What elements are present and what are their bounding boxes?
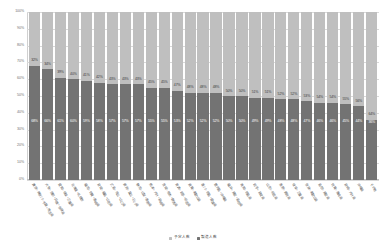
- bar-column[interactable]: 48%52%: [197, 12, 208, 180]
- legend-item[interactable]: 製造人数: [197, 236, 217, 240]
- bar-column[interactable]: 54%46%: [327, 12, 338, 180]
- bar-segment-manufactured[interactable]: 48%: [275, 99, 286, 180]
- bar-column[interactable]: 55%45%: [340, 12, 351, 180]
- bar-segment-planned[interactable]: 48%: [210, 12, 221, 93]
- bar-column[interactable]: 43%57%: [133, 12, 144, 180]
- bar-column[interactable]: 34%66%: [42, 12, 53, 180]
- bar-segment-manufactured[interactable]: 50%: [223, 96, 234, 180]
- bar-segment-planned[interactable]: 64%: [366, 12, 377, 120]
- bar-segment-planned[interactable]: 50%: [236, 12, 247, 96]
- bar-column[interactable]: 43%57%: [107, 12, 118, 180]
- bar-column[interactable]: 53%47%: [301, 12, 312, 180]
- bar-segment-label: 49%: [252, 120, 259, 124]
- x-axis-label-slot: 岩手・宮城県: [249, 182, 260, 230]
- bar-segment-planned[interactable]: 54%: [327, 12, 338, 103]
- y-axis-tick-label: 10%: [0, 161, 24, 165]
- bar-segment-planned[interactable]: 39%: [55, 12, 66, 78]
- x-axis-label-slot: 広島・岡山・山口県: [107, 182, 118, 230]
- bar-segment-manufactured[interactable]: 53%: [172, 91, 183, 180]
- bar-column[interactable]: 47%53%: [172, 12, 183, 180]
- bar-column[interactable]: 48%52%: [210, 12, 221, 180]
- bar-segment-manufactured[interactable]: 55%: [159, 88, 170, 180]
- bar-segment-planned[interactable]: 32%: [29, 12, 40, 66]
- bar-segment-label: 68%: [31, 120, 38, 124]
- bar-segment-manufactured[interactable]: 52%: [210, 93, 221, 180]
- bar-column[interactable]: 56%44%: [353, 12, 364, 180]
- bar-segment-manufactured[interactable]: 48%: [288, 99, 299, 180]
- bar-segment-planned[interactable]: 52%: [288, 12, 299, 99]
- bar-segment-planned[interactable]: 45%: [159, 12, 170, 88]
- bar-segment-planned[interactable]: 50%: [223, 12, 234, 96]
- bar-column[interactable]: 45%55%: [159, 12, 170, 180]
- bar-segment-manufactured[interactable]: 49%: [249, 98, 260, 180]
- bar-segment-planned[interactable]: 34%: [42, 12, 53, 69]
- bar-segment-manufactured[interactable]: 59%: [81, 81, 92, 180]
- bar-segment-planned[interactable]: 48%: [197, 12, 208, 93]
- bar-segment-manufactured[interactable]: 58%: [94, 83, 105, 180]
- bar-column[interactable]: 32%68%: [29, 12, 40, 180]
- bar-segment-planned[interactable]: 55%: [340, 12, 351, 104]
- bar-segment-planned[interactable]: 56%: [353, 12, 364, 106]
- bar-segment-label: 45%: [342, 120, 349, 124]
- bar-segment-label: 39%: [57, 71, 64, 75]
- bar-segment-planned[interactable]: 53%: [301, 12, 312, 101]
- bar-segment-planned[interactable]: 41%: [81, 12, 92, 81]
- bar-column[interactable]: 52%48%: [275, 12, 286, 180]
- bar-column[interactable]: 50%50%: [223, 12, 234, 180]
- bar-segment-manufactured[interactable]: 60%: [68, 79, 79, 180]
- bar-segment-label: 59%: [83, 120, 90, 124]
- legend-item[interactable]: 予定人数: [169, 236, 189, 240]
- bar-segment-manufactured[interactable]: 46%: [327, 103, 338, 180]
- bar-column[interactable]: 42%58%: [94, 12, 105, 180]
- bar-segment-planned[interactable]: 51%: [249, 12, 260, 98]
- bar-segment-planned[interactable]: 43%: [120, 12, 131, 84]
- bar-segment-manufactured[interactable]: 61%: [55, 78, 66, 180]
- bar-segment-label: 48%: [187, 86, 194, 90]
- bar-column[interactable]: 40%60%: [68, 12, 79, 180]
- bar-column[interactable]: 51%49%: [262, 12, 273, 180]
- bar-column[interactable]: 54%46%: [314, 12, 325, 180]
- bar-segment-planned[interactable]: 54%: [314, 12, 325, 103]
- bar-segment-planned[interactable]: 47%: [172, 12, 183, 91]
- bar-segment-planned[interactable]: 43%: [107, 12, 118, 84]
- bar-segment-manufactured[interactable]: 66%: [42, 69, 53, 180]
- bar-column[interactable]: 45%55%: [146, 12, 157, 180]
- bar-segment-manufactured[interactable]: 57%: [107, 84, 118, 180]
- bar-column[interactable]: 52%48%: [288, 12, 299, 180]
- bar-segment-label: 49%: [265, 120, 272, 124]
- bar-segment-manufactured[interactable]: 57%: [120, 84, 131, 180]
- bar-column[interactable]: 43%57%: [120, 12, 131, 180]
- x-axis-label-slot: 静岡・山梨・長野県: [133, 182, 144, 230]
- bar-segment-manufactured[interactable]: 50%: [236, 96, 247, 180]
- bar-segment-label: 66%: [44, 120, 51, 124]
- bar-segment-planned[interactable]: 45%: [146, 12, 157, 88]
- bar-segment-planned[interactable]: 51%: [262, 12, 273, 98]
- bar-segment-manufactured[interactable]: 49%: [262, 98, 273, 180]
- x-axis-labels: 東京・神奈川・千葉・埼玉県大阪・京都・兵庫・奈良県愛知・岐阜・三重県北海道・札幌…: [27, 182, 379, 230]
- bar-segment-manufactured[interactable]: 47%: [301, 101, 312, 180]
- bar-column[interactable]: 41%59%: [81, 12, 92, 180]
- bar-segment-manufactured[interactable]: 57%: [133, 84, 144, 180]
- bar-segment-manufactured[interactable]: 55%: [146, 88, 157, 180]
- bar-segment-planned[interactable]: 52%: [275, 12, 286, 99]
- bar-segment-label: 48%: [213, 86, 220, 90]
- bar-segment-manufactured[interactable]: 44%: [353, 106, 364, 180]
- bar-segment-planned[interactable]: 43%: [133, 12, 144, 84]
- bar-column[interactable]: 39%61%: [55, 12, 66, 180]
- y-axis-tick-label: 70%: [0, 60, 24, 64]
- bar-segment-manufactured[interactable]: 46%: [314, 103, 325, 180]
- bar-segment-planned[interactable]: 40%: [68, 12, 79, 79]
- bar-segment-manufactured[interactable]: 68%: [29, 66, 40, 180]
- bar-column[interactable]: 51%49%: [249, 12, 260, 180]
- bar-column[interactable]: 48%52%: [185, 12, 196, 180]
- bar-segment-manufactured[interactable]: 52%: [185, 93, 196, 180]
- y-axis-tick-label: 0%: [0, 178, 24, 182]
- bar-segment-manufactured[interactable]: 36%: [366, 120, 377, 180]
- bar-segment-manufactured[interactable]: 52%: [197, 93, 208, 180]
- bar-column[interactable]: 50%50%: [236, 12, 247, 180]
- bar-column[interactable]: 64%36%: [366, 12, 377, 180]
- x-axis-label-slot: 宮城・福島・山形県: [94, 182, 105, 230]
- bar-segment-manufactured[interactable]: 45%: [340, 104, 351, 180]
- bar-segment-planned[interactable]: 42%: [94, 12, 105, 83]
- bar-segment-planned[interactable]: 48%: [185, 12, 196, 93]
